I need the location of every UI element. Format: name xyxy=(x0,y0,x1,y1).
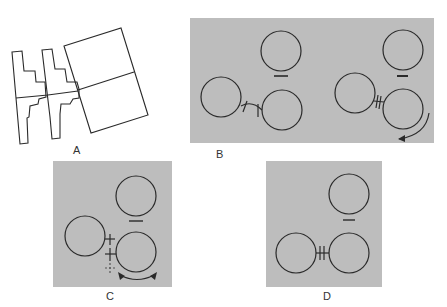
panel-a xyxy=(12,28,148,144)
panel-b-background xyxy=(190,18,434,143)
panel-c-background xyxy=(53,161,172,287)
figure: A B xyxy=(0,0,447,307)
panel-c xyxy=(53,161,172,287)
panel-label-b: B xyxy=(216,148,223,160)
panel-b xyxy=(190,18,434,143)
rectangle-divider xyxy=(78,72,134,90)
panel-d xyxy=(266,161,382,287)
panel-label-d: D xyxy=(323,290,331,302)
panel-label-c: C xyxy=(106,290,114,302)
staircase-shape-middle xyxy=(42,49,79,139)
panel-label-a: A xyxy=(73,144,81,156)
